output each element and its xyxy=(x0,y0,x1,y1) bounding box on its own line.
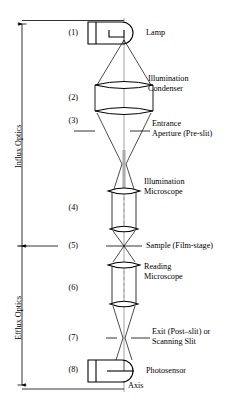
influx-bracket xyxy=(18,21,125,247)
diagram-canvas xyxy=(0,0,237,413)
exit-slit xyxy=(106,306,150,360)
illumination-microscope-label-line2: Microscope xyxy=(144,187,183,197)
stage-number-6: (6) xyxy=(56,283,78,292)
entrance-aperture-label-line1: Entrance xyxy=(152,119,181,129)
stage-number-1: (1) xyxy=(56,28,78,37)
sample-label: Sample (Film-stage) xyxy=(146,241,213,251)
reading-microscope-label-line1: Reading xyxy=(144,262,171,272)
stage-number-4: (4) xyxy=(56,203,78,212)
reading-microscope-label-line2: Microscope xyxy=(144,272,183,282)
exit-slit-label-line2: Scanning Slit xyxy=(152,337,196,347)
stage-number-2: (2) xyxy=(56,93,78,102)
entrance-aperture-label-line2: Aperture (Pre-slit) xyxy=(152,129,212,139)
lamp-label: Lamp xyxy=(146,28,165,38)
illumination-condenser-label-line1: Illumination xyxy=(148,74,188,84)
illumination-condenser-label-line2: Condenser xyxy=(148,84,183,94)
photosensor-label: Photosensor xyxy=(146,366,186,376)
influx-optics-label: Influx Optics xyxy=(14,125,23,168)
stage-number-7: (7) xyxy=(56,333,78,342)
efflux-optics-label: Efflux Optics xyxy=(14,296,23,340)
axis-label: Axis xyxy=(128,381,143,390)
exit-slit-label-line1: Exit (Post–slit) or xyxy=(152,327,210,337)
stage-number-8: (8) xyxy=(56,365,78,374)
optical-diagram: Influx Optics Efflux Optics (1) (2) (3) … xyxy=(0,0,237,413)
photosensor-housing xyxy=(88,360,134,382)
lamp-housing xyxy=(88,22,133,44)
stage-number-5: (5) xyxy=(56,241,78,250)
illumination-microscope-label-line1: Illumination xyxy=(144,177,184,187)
stage-number-3: (3) xyxy=(56,116,78,125)
